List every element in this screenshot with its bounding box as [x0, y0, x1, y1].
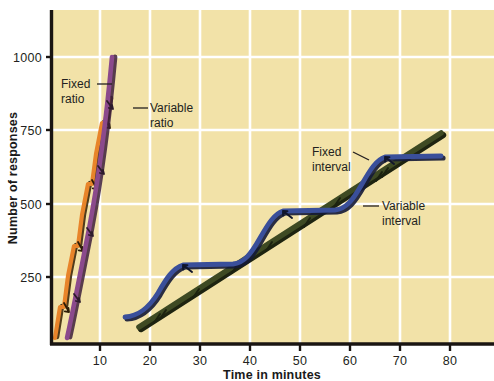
x-tick-label-40: 40 [243, 354, 258, 368]
x-tick-label-70: 70 [393, 354, 408, 368]
x-tick-label-20: 20 [143, 354, 158, 368]
x-tick-label-10: 10 [93, 354, 108, 368]
variable-ratio-label-line2: ratio [150, 116, 174, 130]
fixed-interval-label-line1: Fixed [312, 145, 341, 159]
x-tick-label-60: 60 [343, 354, 358, 368]
cumulative-response-chart-figure: 1000 750 500 250 10 20 30 40 50 60 70 80… [0, 0, 494, 381]
fixed-ratio-label-line2: ratio [61, 92, 85, 106]
chart-canvas: 1000 750 500 250 10 20 30 40 50 60 70 80… [0, 0, 494, 381]
fixed-interval-label-line2: interval [312, 160, 351, 174]
y-tick-label-1000: 1000 [13, 51, 42, 65]
x-tick-label-50: 50 [293, 354, 308, 368]
fixed-ratio-label-line1: Fixed [61, 77, 90, 91]
x-axis-title: Time in minutes [223, 368, 321, 381]
y-tick-label-250: 250 [20, 271, 42, 285]
y-axis-title: Number of responses [6, 112, 20, 244]
variable-ratio-label-line1: Variable [150, 101, 193, 115]
y-tick-label-750: 750 [20, 124, 42, 138]
variable-interval-label-line2: interval [382, 214, 421, 228]
x-tick-label-30: 30 [193, 354, 208, 368]
x-tick-label-80: 80 [443, 354, 458, 368]
variable-interval-label-line1: Variable [382, 199, 425, 213]
y-tick-label-500: 500 [20, 198, 42, 212]
